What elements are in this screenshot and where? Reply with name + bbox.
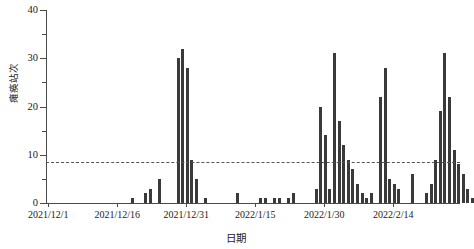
bar xyxy=(177,58,180,203)
bar xyxy=(190,160,193,203)
bar xyxy=(425,193,428,203)
y-tick-label: 30 xyxy=(0,52,38,63)
bar xyxy=(471,198,474,203)
x-tick xyxy=(393,203,394,207)
bar xyxy=(430,184,433,203)
y-tick-minor xyxy=(42,34,46,35)
bar xyxy=(356,184,359,203)
bar xyxy=(466,189,469,203)
bar xyxy=(264,198,267,203)
x-tick xyxy=(117,203,118,207)
bar xyxy=(448,97,451,203)
bar xyxy=(351,169,354,203)
y-tick-minor xyxy=(42,179,46,180)
x-tick xyxy=(324,203,325,207)
bar xyxy=(292,193,295,203)
bar xyxy=(384,68,387,203)
y-tick-label: 0 xyxy=(0,197,38,208)
bar xyxy=(397,189,400,203)
bar xyxy=(361,193,364,203)
bar xyxy=(259,198,262,203)
y-tick-label: 20 xyxy=(0,101,38,112)
bar xyxy=(342,145,345,203)
y-tick-label: 10 xyxy=(0,149,38,160)
x-tick-label: 2022/2/14 xyxy=(373,209,414,220)
y-tick-major xyxy=(40,10,46,11)
bar xyxy=(434,160,437,203)
bar xyxy=(393,184,396,203)
y-tick-minor xyxy=(42,82,46,83)
bar xyxy=(144,193,147,203)
bar xyxy=(278,198,281,203)
y-tick-major xyxy=(40,203,46,204)
bar xyxy=(328,189,331,203)
threshold-line xyxy=(46,162,460,163)
y-tick-minor xyxy=(42,131,46,132)
x-axis-title: 日期 xyxy=(0,230,472,245)
x-tick xyxy=(48,203,49,207)
bar xyxy=(443,53,446,203)
x-tick xyxy=(255,203,256,207)
bar xyxy=(333,53,336,203)
bar xyxy=(158,179,161,203)
y-tick-major xyxy=(40,155,46,156)
x-tick-label: 2021/12/1 xyxy=(28,209,69,220)
bar-series xyxy=(47,10,460,203)
bar xyxy=(186,68,189,203)
x-tick xyxy=(186,203,187,207)
x-axis-line xyxy=(46,203,460,204)
bar xyxy=(195,179,198,203)
bar xyxy=(365,198,368,203)
x-tick-label: 2021/12/16 xyxy=(95,209,141,220)
x-tick-label: 2022/1/15 xyxy=(235,209,276,220)
bar xyxy=(411,174,414,203)
bar xyxy=(347,160,350,203)
y-tick-major xyxy=(40,58,46,59)
bar xyxy=(287,198,290,203)
bar xyxy=(370,193,373,203)
bar xyxy=(457,164,460,203)
x-tick-label: 2021/12/31 xyxy=(164,209,210,220)
bar xyxy=(388,179,391,203)
bar xyxy=(149,189,152,203)
bar xyxy=(204,198,207,203)
y-tick-major xyxy=(40,107,46,108)
bar xyxy=(319,107,322,204)
bar xyxy=(462,174,465,203)
y-tick-label: 40 xyxy=(0,4,38,15)
bar xyxy=(181,49,184,203)
bar xyxy=(273,198,276,203)
bar xyxy=(236,193,239,203)
bar xyxy=(439,111,442,203)
x-tick-label: 2022/1/30 xyxy=(304,209,345,220)
bar xyxy=(324,135,327,203)
bar xyxy=(131,198,134,203)
bar xyxy=(379,97,382,203)
bar xyxy=(453,150,456,203)
bar xyxy=(315,189,318,203)
